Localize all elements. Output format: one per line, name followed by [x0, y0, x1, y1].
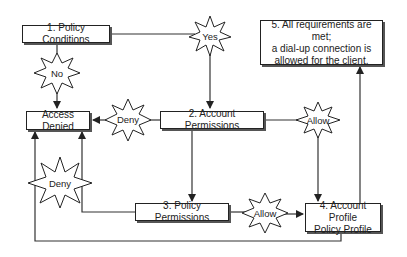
- deny-bottom-label: Deny: [49, 178, 71, 189]
- requirements-line-2: a dial-up connection is: [272, 43, 372, 55]
- policy-permissions-box: 3. Policy Permissions: [135, 203, 229, 221]
- policy-conditions-box: 1. Policy Conditions: [22, 25, 110, 43]
- allow-bottom-label: Allow: [254, 208, 277, 219]
- account-permissions-label: 2. Account Permissions: [161, 108, 263, 132]
- requirements-met-box: 5. All requirements are met; a dial-up c…: [260, 20, 383, 65]
- access-denied-box: Access Denied: [26, 111, 90, 130]
- deny-top-label: Deny: [117, 114, 139, 125]
- requirements-line-3: allowed for the client.: [275, 55, 369, 67]
- policy-profile-label: Policy Profile: [314, 224, 372, 236]
- yes-label: Yes: [202, 31, 218, 42]
- allow-top-label: Allow: [307, 115, 330, 126]
- account-permissions-box: 2. Account Permissions: [160, 111, 264, 129]
- access-denied-label: Access Denied: [27, 109, 89, 133]
- policy-permissions-label: 3. Policy Permissions: [136, 200, 228, 224]
- account-profile-label: 4. Account Profile: [306, 200, 380, 224]
- requirements-line-1: 5. All requirements are met;: [261, 19, 382, 43]
- no-label: No: [51, 68, 63, 79]
- policy-conditions-label: 1. Policy Conditions: [23, 22, 109, 46]
- account-profile-box: 4. Account Profile Policy Profile: [305, 203, 381, 232]
